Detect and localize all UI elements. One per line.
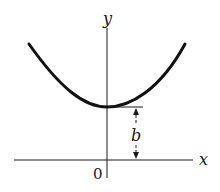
arrow-up-icon	[133, 108, 139, 115]
origin-label: 0	[93, 165, 103, 183]
arrow-down-icon	[133, 152, 139, 159]
diagram-canvas: y x 0 b	[0, 0, 220, 192]
height-label: b	[131, 126, 141, 145]
x-axis-label: x	[199, 150, 208, 169]
y-axis-label: y	[102, 9, 113, 28]
